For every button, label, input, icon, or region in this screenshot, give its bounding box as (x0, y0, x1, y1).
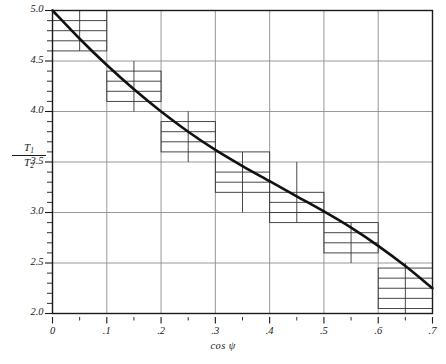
x-axis-label: cos ψ (0, 340, 446, 351)
y-axis-label: T1 T2 (12, 142, 46, 168)
chart-plot-area (0, 0, 446, 364)
x-tick-label: .6 (363, 325, 393, 336)
x-tick-label: .7 (418, 325, 446, 336)
x-tick-label: .3 (200, 325, 230, 336)
y-tick-label: 4.0 (11, 104, 44, 115)
y-tick-label: 2.0 (11, 306, 44, 317)
x-tick-label: 0 (38, 325, 68, 336)
tick-marks-layer (45, 11, 433, 324)
y-tick-label: 4.5 (11, 54, 44, 65)
y-axis-label-numerator: T1 (12, 142, 46, 156)
x-tick-label: .2 (146, 325, 176, 336)
curve-layer (53, 11, 433, 289)
chart-figure: 2.02.53.03.54.04.55.00.1.2.3.4.5.6.7 T1 … (0, 0, 446, 364)
y-tick-label: 2.5 (11, 256, 44, 267)
x-tick-label: .5 (309, 325, 339, 336)
y-tick-label: 5.0 (11, 3, 44, 14)
y-axis-label-denominator: T2 (12, 156, 46, 169)
x-tick-label: .4 (255, 325, 285, 336)
x-tick-label: .1 (92, 325, 122, 336)
y-tick-label: 3.0 (11, 205, 44, 216)
